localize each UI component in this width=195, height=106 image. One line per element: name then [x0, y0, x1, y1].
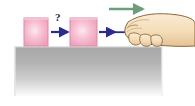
hand-fingers: [129, 33, 163, 46]
physics-figure: ?: [0, 0, 195, 106]
block-2: [70, 18, 97, 46]
surface: [14, 46, 163, 96]
figure-canvas: [0, 0, 195, 106]
question-mark-annotation: ?: [55, 12, 61, 23]
block-1: [24, 18, 48, 46]
hand-icon: [125, 14, 195, 47]
